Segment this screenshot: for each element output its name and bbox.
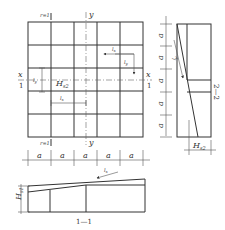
section-1-1: Hs1 1—1 xyxy=(14,179,145,226)
y-axis-top-label: y xyxy=(88,10,94,19)
ly-label: ly xyxy=(33,77,38,84)
plan-outline xyxy=(28,22,143,137)
bottom-section-label: r=1 xyxy=(40,140,50,146)
s22-title: 2—2 xyxy=(212,84,220,100)
grid-slope-diagram: r=1 r=1 y y x 1 x 1 ly Hs2 lx lx ly a xyxy=(0,0,225,230)
spacing-a-5: a xyxy=(129,151,134,160)
x-axis-right-label: x xyxy=(146,70,151,79)
arrow-lx-label: lx xyxy=(112,46,117,53)
section-2-2: a a a a a ly 2—2 Hs2 xyxy=(156,16,220,155)
plan-view: r=1 r=1 y y x 1 x 1 ly Hs2 lx lx ly a xyxy=(18,10,152,166)
spacing-a-4: a xyxy=(106,151,111,160)
section-left-label: 1 xyxy=(19,82,23,90)
s22-spacing-5: a xyxy=(156,123,165,128)
spacing-a-2: a xyxy=(60,151,65,160)
s22-spacing-3: a xyxy=(156,78,165,83)
s11-slope-label: lx xyxy=(104,167,109,174)
y-axis-bottom-label: y xyxy=(88,138,94,147)
top-section-label: r=1 xyxy=(40,12,50,18)
s11-height-label: Hs1 xyxy=(14,187,24,201)
arrow-ly-label: ly xyxy=(124,59,129,66)
spacing-a-3: a xyxy=(83,151,88,160)
x-axis-left-label: x xyxy=(18,70,23,79)
s11-title: 1—1 xyxy=(76,218,92,226)
s22-spacing-4: a xyxy=(156,101,165,106)
s22-height-label: Hs2 xyxy=(192,141,206,151)
s22-spacing-1: a xyxy=(156,33,165,38)
height-label: Hs2 xyxy=(55,79,69,89)
section-right-label: 1 xyxy=(147,82,151,90)
lx-label: lx xyxy=(60,95,65,102)
s22-spacing-2: a xyxy=(156,55,165,60)
spacing-a-1: a xyxy=(37,151,42,160)
